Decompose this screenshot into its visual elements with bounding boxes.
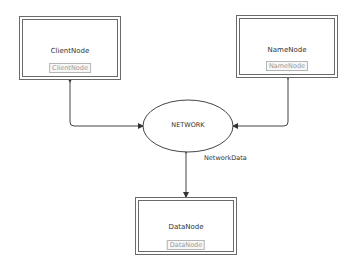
client-node-tag: ClientNode	[49, 63, 91, 73]
data-node-title: DataNode	[136, 223, 236, 231]
name-node-tag: NameNode	[266, 61, 308, 71]
data-node-tag: DataNode	[167, 240, 205, 250]
name-node-title: NameNode	[237, 46, 337, 54]
name-node[interactable]: NameNode NameNode	[236, 15, 338, 78]
client-node-title: ClientNode	[20, 47, 120, 55]
data-node[interactable]: DataNode DataNode	[135, 197, 237, 255]
network-data-label: NetworkData	[204, 154, 247, 162]
client-node[interactable]: ClientNode ClientNode	[19, 16, 121, 80]
diagram-canvas: ClientNode ClientNode NameNode NameNode …	[0, 0, 354, 269]
network-label: NETWORK	[143, 121, 233, 129]
edge-name-network	[233, 79, 288, 126]
edge-client-network	[70, 82, 143, 126]
